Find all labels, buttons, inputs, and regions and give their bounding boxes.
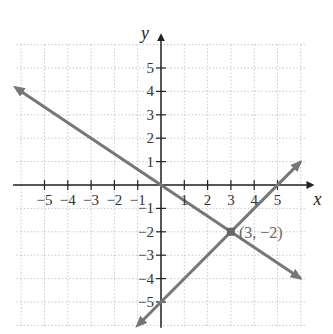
x-axis-label: x (313, 189, 322, 209)
x-tick-label: −4 (60, 192, 76, 208)
x-tick-label: −3 (83, 192, 99, 208)
y-tick-label: 3 (147, 107, 155, 123)
x-tick-label: 1 (181, 192, 189, 208)
x-tick-label: 2 (204, 192, 212, 208)
y-tick-label: 4 (147, 83, 155, 99)
intersection-point-label: (3, −2) (239, 224, 283, 242)
y-tick-label: 1 (147, 154, 155, 170)
coordinate-plane: −5−4−3−2−11234554321−1−2−3−4−5 x y (3, −… (0, 0, 333, 334)
axes (13, 35, 312, 328)
x-tick-label: 3 (227, 192, 235, 208)
y-tick-label: −4 (138, 271, 154, 287)
x-tick-label: 4 (250, 192, 258, 208)
x-tick-label: 5 (274, 192, 282, 208)
y-tick-label: −2 (138, 224, 154, 240)
y-tick-label: −1 (138, 200, 154, 216)
y-tick-label: −3 (138, 247, 154, 263)
y-tick-label: 2 (147, 130, 155, 146)
y-tick-label: −5 (138, 294, 154, 310)
intersection-point-marker (227, 228, 235, 236)
x-tick-label: −5 (37, 192, 53, 208)
y-axis-label: y (139, 23, 149, 43)
x-tick-label: −2 (106, 192, 122, 208)
y-tick-label: 5 (147, 60, 155, 76)
